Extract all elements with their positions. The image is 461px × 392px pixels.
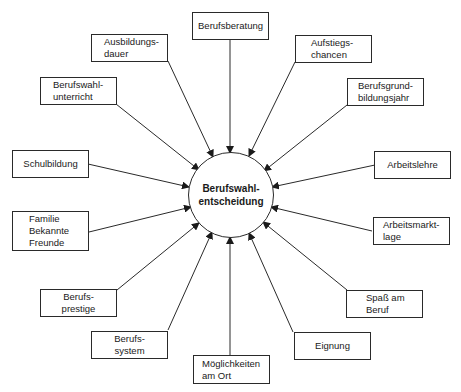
node-familie-bekannte-freunde: Familie Bekannte Freunde	[12, 211, 89, 251]
node-moeglichkeiten-am-ort: Möglichkeiten am Ort	[193, 355, 270, 384]
arrow-spass-am-beruf	[263, 222, 347, 290]
arrow-berufsprestige	[117, 223, 199, 290]
node-berufswahlunterricht: Berufswahl- unterricht	[40, 77, 117, 105]
center-node-berufswahlentscheidung: Berufswahl- entscheidung	[188, 152, 274, 238]
node-schulbildung: Schulbildung	[12, 150, 89, 178]
arrow-arbeitsmarktlage	[271, 207, 372, 231]
arrow-ausbildungsdauer	[168, 61, 213, 157]
arrow-arbeitslehre	[272, 165, 375, 187]
node-berufsgrundbildungsjahr: Berufsgrund- bildungsjahr	[347, 78, 424, 106]
node-eignung: Eignung	[294, 332, 371, 360]
arrow-berufsgrundbildungsjahr	[264, 105, 347, 171]
node-berufsberatung: Berufsberatung	[192, 12, 269, 40]
arrow-eignung	[249, 233, 293, 332]
arrow-schulbildung	[88, 164, 189, 187]
node-arbeitsmarktlage: Arbeitsmarkt- lage	[373, 217, 450, 245]
node-spass-am-beruf: Spaß am Beruf	[346, 290, 423, 318]
arrow-familie	[89, 207, 191, 232]
node-arbeitslehre: Arbeitslehre	[374, 151, 451, 179]
center-label-line2: entscheidung	[198, 195, 263, 208]
arrow-berufssystem	[168, 232, 212, 330]
center-label-line1: Berufswahl-	[202, 182, 259, 195]
arrow-aufstiegschancen	[249, 62, 295, 156]
node-ausbildungsdauer: Ausbildungs- dauer	[91, 34, 168, 62]
node-aufstiegschancen: Aufstiegs- chancen	[295, 35, 372, 63]
node-berufsprestige: Berufs- prestige	[40, 289, 117, 317]
arrow-berufswahlunterricht	[116, 104, 199, 170]
node-berufssystem: Berufs- system	[91, 331, 168, 359]
